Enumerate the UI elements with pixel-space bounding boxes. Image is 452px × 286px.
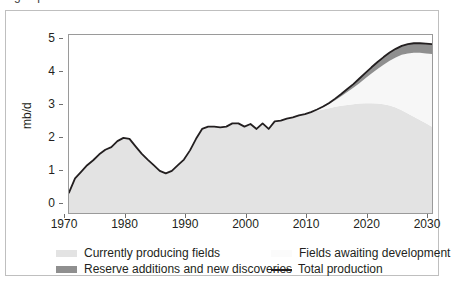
y-tick-label: 5 bbox=[33, 32, 55, 44]
x-tick-label: 1970 bbox=[41, 218, 87, 231]
x-tick-label: 2030 bbox=[404, 218, 450, 231]
legend-item-label: Reserve additions and new discoveries bbox=[84, 263, 292, 276]
area-currently-producing-fields bbox=[69, 103, 432, 213]
legend-row: Reserve additions and new discoveriesTot… bbox=[6, 263, 452, 278]
y-tick-mark bbox=[59, 104, 63, 105]
stacked-area-plot bbox=[69, 35, 432, 213]
y-tick-label: 1 bbox=[33, 164, 55, 176]
figure-frame: mb/d 012345 1970198019902000201020202030… bbox=[5, 10, 439, 276]
x-tick-mark bbox=[185, 214, 186, 218]
cut-off-title: g ... p bbox=[0, 0, 446, 5]
x-tick-mark bbox=[306, 214, 307, 218]
y-tick-label: 3 bbox=[33, 98, 55, 110]
legend-item[interactable]: Total production bbox=[271, 263, 383, 276]
legend-item[interactable]: Reserve additions and new discoveries bbox=[56, 263, 292, 276]
x-tick-mark bbox=[64, 214, 65, 218]
plot-area bbox=[68, 34, 433, 214]
cut-off-title-text: g ... p bbox=[14, 0, 44, 3]
legend-row: Currently producing fieldsFields awaitin… bbox=[6, 247, 452, 262]
x-tick-mark bbox=[246, 214, 247, 218]
legend-color-swatch bbox=[271, 250, 292, 257]
y-tick-mark bbox=[59, 203, 63, 204]
legend-color-swatch bbox=[56, 266, 77, 273]
legend-color-swatch bbox=[56, 250, 77, 257]
legend-item-label: Total production bbox=[298, 263, 383, 276]
legend-item[interactable]: Fields awaiting development bbox=[271, 247, 450, 260]
y-tick-mark bbox=[59, 170, 63, 171]
x-tick-mark bbox=[125, 214, 126, 218]
x-tick-mark bbox=[367, 214, 368, 218]
legend-item[interactable]: Currently producing fields bbox=[56, 247, 220, 260]
legend-item-label: Fields awaiting development bbox=[299, 247, 450, 260]
y-tick-mark bbox=[59, 137, 63, 138]
legend-line-swatch bbox=[271, 269, 292, 271]
legend-item-label: Currently producing fields bbox=[84, 247, 220, 260]
x-tick-label: 1990 bbox=[162, 218, 208, 231]
x-tick-label: 2020 bbox=[344, 218, 390, 231]
x-tick-label: 2010 bbox=[283, 218, 329, 231]
y-tick-mark bbox=[59, 71, 63, 72]
x-tick-label: 2000 bbox=[223, 218, 269, 231]
y-tick-label: 0 bbox=[33, 197, 55, 209]
chart-legend: Currently producing fieldsFields awaitin… bbox=[6, 247, 452, 286]
x-tick-label: 1980 bbox=[102, 218, 148, 231]
y-tick-label: 2 bbox=[33, 131, 55, 143]
y-axis-title: mb/d bbox=[20, 102, 34, 129]
y-tick-mark bbox=[59, 38, 63, 39]
x-tick-mark bbox=[427, 214, 428, 218]
y-tick-label: 4 bbox=[33, 65, 55, 77]
